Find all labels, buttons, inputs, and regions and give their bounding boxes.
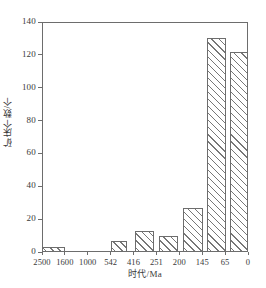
bar: [183, 208, 203, 252]
y-axis-tick-label: 40: [27, 179, 36, 192]
bar: [230, 52, 248, 252]
x-axis-tick-label: 2500: [33, 256, 50, 268]
x-axis-tick-mark: [156, 252, 157, 255]
y-axis-tick-label: 20: [27, 212, 36, 225]
x-axis-tick-mark: [133, 252, 134, 255]
x-axis-title: 时代/Ma: [42, 268, 248, 281]
x-axis-tick-mark: [179, 252, 180, 255]
y-axis-tick-label: 80: [27, 114, 36, 127]
bar: [159, 236, 178, 252]
y-axis-tick-label: 120: [22, 48, 36, 61]
bar: [207, 38, 227, 252]
y-axis-tick-label: 140: [22, 15, 36, 28]
y-axis-tick-label: 100: [22, 81, 36, 94]
x-axis-tick-mark: [64, 252, 65, 255]
x-axis-tick-mark: [42, 252, 43, 255]
x-axis-tick-label: 0: [246, 256, 250, 268]
x-axis-tick-label: 542: [104, 256, 117, 268]
x-axis-tick-label: 416: [127, 256, 140, 268]
x-axis-tick-label: 1600: [56, 256, 73, 268]
x-axis-tick-mark: [87, 252, 88, 255]
x-axis-tick-mark: [225, 252, 226, 255]
bars-layer: [42, 22, 248, 252]
x-axis-tick-label: 200: [173, 256, 186, 268]
y-axis-tick-label: 60: [27, 146, 36, 159]
x-axis-tick-label: 65: [221, 256, 230, 268]
x-axis-tick-label: 145: [196, 256, 209, 268]
x-axis-tick-mark: [110, 252, 111, 255]
bar-chart-figure: 020406080100120140 矿床个数/个 25001600100054…: [0, 0, 266, 288]
x-axis-tick-label: 1000: [79, 256, 96, 268]
x-axis-tick-mark: [248, 252, 249, 255]
x-axis-tick-mark: [202, 252, 203, 255]
y-axis-title: 矿床个数/个: [2, 96, 16, 147]
x-axis-tick-label: 251: [150, 256, 163, 268]
bar: [135, 231, 155, 252]
bar: [111, 241, 127, 253]
